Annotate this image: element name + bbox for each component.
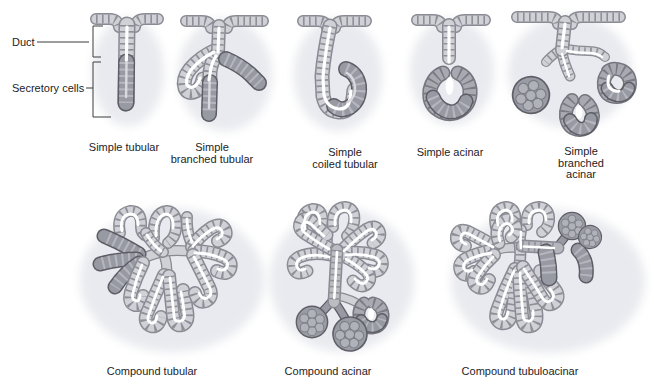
acinus-lumen <box>446 77 454 95</box>
duct-label: Duct <box>12 36 35 48</box>
caption-simple-tubular: Simple tubular <box>89 142 159 154</box>
caption-simple-acinar: Simple acinar <box>417 147 484 159</box>
gland-illustrations <box>0 0 654 390</box>
caption-compound-tubular: Compound tubular <box>107 366 198 378</box>
secretory-cells-label: Secretory cells <box>12 82 84 94</box>
berry-acinus <box>296 306 327 337</box>
caption-simple-branched-tubular: Simple branched tubular <box>171 142 254 165</box>
caption-compound-tubuloacinar: Compound tubuloacinar <box>462 366 579 378</box>
gland-classification-figure: Duct Secretory cells Simple tubular Simp… <box>0 0 654 390</box>
caption-simple-coiled-tubular: Simple coiled tubular <box>312 147 377 170</box>
caption-compound-acinar: Compound acinar <box>285 366 372 378</box>
caption-simple-branched-acinar: Simple branched acinar <box>545 146 618 181</box>
